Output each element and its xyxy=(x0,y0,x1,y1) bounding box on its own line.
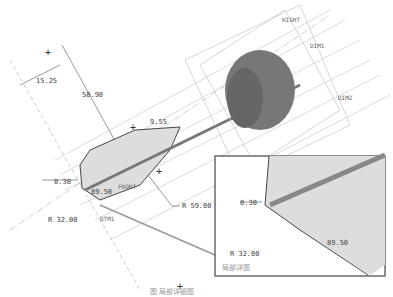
crosshair-icon: + xyxy=(45,47,51,58)
figure-caption: 图 局部详细图 xyxy=(150,286,194,296)
detail-dim-radius: R 32.00 xyxy=(230,250,260,258)
detail-label: 局部详图 xyxy=(222,263,250,272)
datum-top: TOP xyxy=(237,120,248,127)
dim-15-25: 15.25 xyxy=(36,77,57,85)
datum-dim2: DIM2 xyxy=(338,94,353,101)
cad-drawing: 15.25 50.90 + RIGHT DIM1 DIM2 TOP FRONT … xyxy=(0,0,393,297)
svg-text:+: + xyxy=(130,122,136,133)
dim-89-50: 89.50 xyxy=(91,188,112,196)
dim-r32: R 32.00 xyxy=(48,216,78,224)
dim-50-90: 50.90 xyxy=(82,91,103,99)
detail-dim-gap: 0.30 xyxy=(240,199,257,207)
dim-9-55: 9.55 xyxy=(150,118,167,126)
svg-text:+: + xyxy=(156,166,162,177)
datum-right: RIGHT xyxy=(282,16,300,23)
dim-r59: R 59.00 xyxy=(182,202,212,210)
datum-front: FRONT xyxy=(118,183,136,190)
detail-view: 0.30 89.50 R 32.00 局部详图 xyxy=(215,155,385,276)
detail-dim-angle: 89.50 xyxy=(327,239,348,247)
datum-dim1: DIM1 xyxy=(310,42,325,49)
dim-0-30: 0.30 xyxy=(54,178,71,186)
datum-dtm1: DTM1 xyxy=(100,215,115,222)
